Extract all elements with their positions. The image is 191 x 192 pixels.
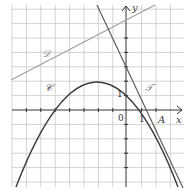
label-tangent-T: 𝒯 bbox=[145, 83, 153, 93]
label-point-A: A bbox=[158, 115, 165, 125]
label-line-D: 𝒟 bbox=[42, 49, 50, 59]
label-y-unit: 1 bbox=[117, 90, 123, 99]
graph-canvas bbox=[0, 0, 191, 192]
function-graph: 𝒟 𝒞 𝒯 A x y 0 1 1 bbox=[0, 0, 191, 192]
curve-C bbox=[16, 82, 178, 187]
label-curve-C: 𝒞 bbox=[45, 83, 52, 93]
label-x-unit: 1 bbox=[139, 115, 145, 124]
label-origin: 0 bbox=[118, 114, 124, 123]
grid bbox=[12, 5, 184, 187]
line-D bbox=[11, 5, 155, 80]
label-y-axis: y bbox=[132, 3, 138, 13]
label-x-axis: x bbox=[176, 115, 182, 125]
axes bbox=[12, 6, 182, 187]
